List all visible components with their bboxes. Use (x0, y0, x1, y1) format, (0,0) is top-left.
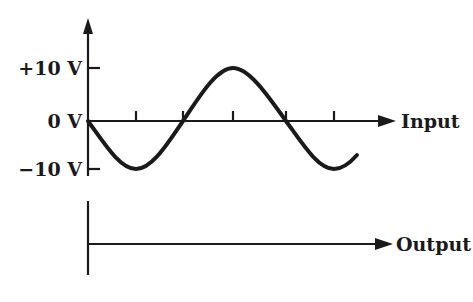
output-axis-label: Output (396, 233, 471, 255)
input-axis-label: Input (401, 110, 460, 132)
input-graph: +10 V 0 V −10 V Input (18, 18, 460, 180)
input-sine-wave (88, 68, 357, 169)
output-x-axis-arrowhead (375, 238, 393, 250)
input-x-axis-arrowhead (378, 115, 396, 127)
input-y-axis-arrowhead (83, 18, 93, 34)
label-0v: 0 V (47, 110, 83, 132)
voltage-waveform-diagram: +10 V 0 V −10 V Input Output (0, 0, 473, 302)
label-minus-10v: −10 V (18, 158, 83, 180)
output-graph: Output (88, 201, 471, 275)
label-plus-10v: +10 V (18, 57, 83, 79)
